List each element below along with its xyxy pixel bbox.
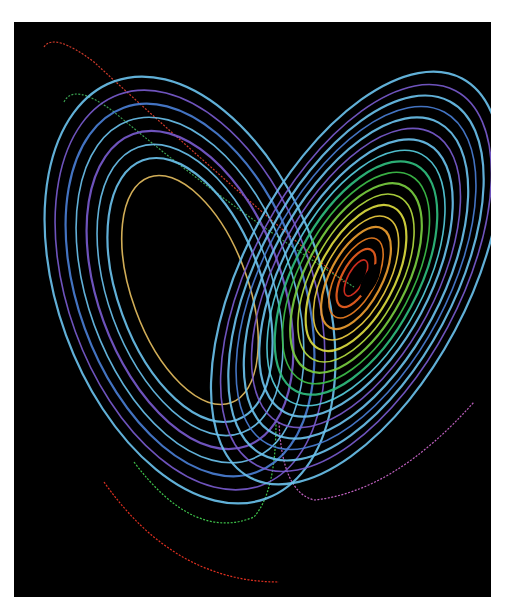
orbit-ring bbox=[318, 230, 395, 326]
orbit-ring bbox=[33, 86, 348, 494]
trajectory-trail bbox=[104, 482, 279, 582]
right-lobe bbox=[151, 26, 491, 530]
lorenz-attractor-graphic bbox=[14, 22, 491, 597]
orbit-ring bbox=[14, 53, 376, 527]
attractor-image bbox=[14, 22, 491, 597]
